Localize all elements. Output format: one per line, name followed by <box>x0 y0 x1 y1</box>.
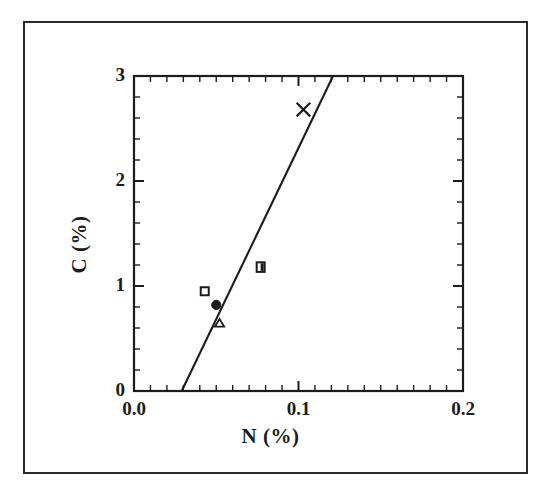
data-point-filled-circle <box>212 300 221 309</box>
figure-container: N (%) C (%) 0.00.10.20123 <box>0 0 541 498</box>
half-filled-square-fill <box>261 263 264 271</box>
y-axis-tick-label: 2 <box>85 169 125 191</box>
y-axis-tick-label: 3 <box>85 64 125 86</box>
data-point-half-filled-square <box>257 262 265 272</box>
x-axis-tick-label: 0.0 <box>99 398 169 420</box>
filled-circle-marker <box>212 300 221 309</box>
x-axis-tick-label: 0.2 <box>428 398 498 420</box>
x-axis-title: N (%) <box>0 424 541 449</box>
data-point-open-square <box>201 287 209 295</box>
open-square-marker <box>201 287 209 295</box>
x-axis-tick-label: 0.1 <box>264 398 334 420</box>
y-axis-tick-label: 1 <box>85 274 125 296</box>
y-axis-tick-label: 0 <box>85 379 125 401</box>
plot-frame <box>134 76 463 391</box>
trend-line <box>182 76 333 391</box>
data-point-cross-x <box>297 103 311 117</box>
